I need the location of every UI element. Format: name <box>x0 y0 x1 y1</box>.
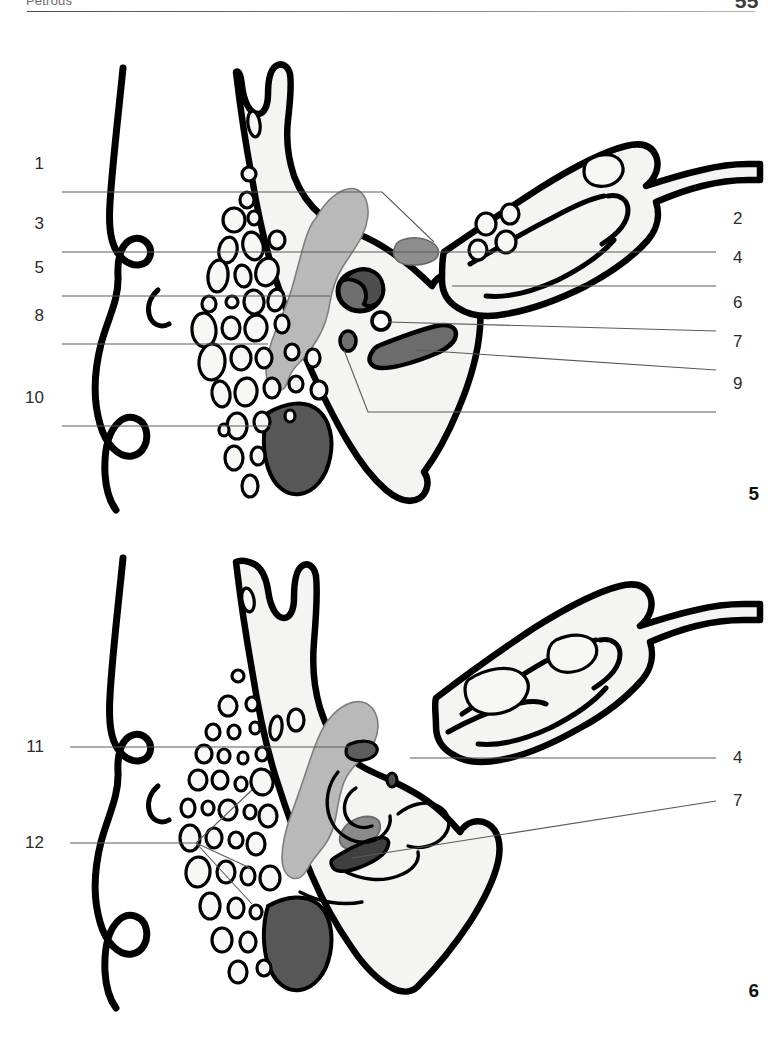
callout-figure-5-5: 5 <box>35 259 44 276</box>
callout-figure-6-12: 12 <box>25 834 44 851</box>
callout-figure-5-7: 7 <box>733 333 742 350</box>
ossicle-small <box>372 312 390 330</box>
auricle-outline <box>95 68 169 510</box>
callout-figure-5-10: 10 <box>25 389 44 406</box>
carotid-canal <box>340 331 356 351</box>
mandibular-condyle-6 <box>435 584 760 762</box>
figure-number-5: 5 <box>748 483 759 505</box>
figure-6: 6 <box>0 528 781 1028</box>
sigmoid-sinus <box>264 404 332 495</box>
callout-figure-5-9: 9 <box>733 375 742 392</box>
mandibular-condyle <box>442 144 760 316</box>
callout-figure-5-3: 3 <box>35 215 44 232</box>
running-head: Petrous <box>26 0 72 8</box>
callout-figure-6-11: 11 <box>26 738 44 755</box>
callout-figure-5-2: 2 <box>733 210 742 227</box>
callout-figure-6-4: 4 <box>733 749 742 766</box>
callout-figure-5-1: 1 <box>35 155 44 172</box>
header-rule <box>27 11 755 12</box>
auricle-outline-6 <box>95 558 169 1008</box>
figure-number-6: 6 <box>748 980 759 1002</box>
callout-figure-5-4: 4 <box>733 249 742 266</box>
figure-5: 5 <box>0 28 781 518</box>
textbook-page: Petrous 55 <box>0 0 781 1050</box>
cochlea <box>338 269 383 311</box>
callout-figure-5-8: 8 <box>35 307 44 324</box>
anatomical-drawing-6 <box>0 528 781 1028</box>
anatomical-drawing-5 <box>0 28 781 518</box>
eustachian-tube <box>393 238 438 265</box>
callout-figure-5-6: 6 <box>733 294 742 311</box>
sigmoid-sinus-6 <box>264 897 332 990</box>
callout-figure-6-7: 7 <box>733 792 742 809</box>
